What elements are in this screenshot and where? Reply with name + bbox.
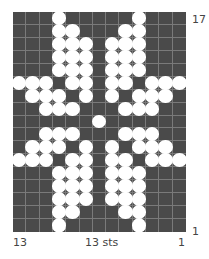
contrast-stitch-dot: [158, 153, 172, 167]
contrast-stitch-dot: [52, 24, 66, 38]
chart-cell: [173, 12, 186, 25]
chart-cell: [40, 193, 53, 206]
knitting-chart-grid: [13, 12, 186, 232]
chart-cell: [119, 103, 132, 116]
chart-cell: [93, 51, 106, 64]
chart-cell: [13, 206, 26, 219]
stitch-count-label: 13 sts: [85, 237, 118, 248]
chart-cell: [66, 12, 79, 25]
chart-cell: [66, 219, 79, 232]
chart-cell: [106, 12, 119, 25]
chart-cell: [133, 219, 146, 232]
chart-cell: [80, 25, 93, 38]
contrast-stitch-dot: [65, 24, 79, 38]
chart-cell: [146, 206, 159, 219]
contrast-stitch-dot: [118, 76, 132, 90]
chart-cell: [40, 103, 53, 116]
contrast-stitch-dot: [105, 63, 119, 77]
chart-cell: [66, 77, 79, 90]
chart-cell: [26, 116, 39, 129]
contrast-stitch-dot: [25, 153, 39, 167]
chart-cell: [53, 64, 66, 77]
row-label-top: 17: [192, 14, 206, 25]
contrast-stitch-dot: [65, 179, 79, 193]
contrast-stitch-dot: [132, 37, 146, 51]
chart-cell: [159, 90, 172, 103]
contrast-stitch-dot: [65, 37, 79, 51]
chart-cell: [40, 77, 53, 90]
chart-cell: [53, 12, 66, 25]
chart-cell: [53, 141, 66, 154]
chart-cell: [80, 77, 93, 90]
chart-cell: [26, 51, 39, 64]
chart-cell: [40, 64, 53, 77]
contrast-stitch-dot: [65, 153, 79, 167]
contrast-stitch-dot: [105, 76, 119, 90]
chart-cell: [146, 64, 159, 77]
chart-cell: [40, 12, 53, 25]
chart-cell: [80, 90, 93, 103]
chart-cell: [93, 90, 106, 103]
contrast-stitch-dot: [52, 11, 66, 25]
contrast-stitch-dot: [132, 140, 146, 154]
chart-cell: [66, 103, 79, 116]
chart-cell: [106, 193, 119, 206]
contrast-stitch-dot: [132, 127, 146, 141]
chart-cell: [66, 25, 79, 38]
contrast-stitch-dot: [118, 179, 132, 193]
chart-cell: [53, 103, 66, 116]
chart-cell: [26, 103, 39, 116]
contrast-stitch-dot: [65, 192, 79, 206]
chart-cell: [40, 51, 53, 64]
chart-cell: [53, 38, 66, 51]
contrast-stitch-dot: [52, 50, 66, 64]
chart-cell: [93, 64, 106, 77]
chart-cell: [106, 219, 119, 232]
chart-cell: [119, 12, 132, 25]
chart-cell: [93, 116, 106, 129]
contrast-stitch-dot: [118, 166, 132, 180]
chart-cell: [159, 154, 172, 167]
chart-cell: [173, 206, 186, 219]
chart-cell: [40, 90, 53, 103]
chart-cell: [159, 167, 172, 180]
chart-cell: [26, 64, 39, 77]
contrast-stitch-dot: [79, 76, 93, 90]
contrast-stitch-dot: [65, 63, 79, 77]
chart-cell: [40, 180, 53, 193]
contrast-stitch-dot: [158, 89, 172, 103]
chart-cell: [173, 103, 186, 116]
contrast-stitch-dot: [52, 179, 66, 193]
chart-cell: [53, 90, 66, 103]
contrast-stitch-dot: [118, 127, 132, 141]
chart-cell: [159, 116, 172, 129]
chart-cell: [13, 25, 26, 38]
chart-cell: [119, 128, 132, 141]
contrast-stitch-dot: [65, 166, 79, 180]
chart-cell: [106, 64, 119, 77]
chart-cell: [159, 12, 172, 25]
contrast-stitch-dot: [145, 102, 159, 116]
contrast-stitch-dot: [132, 166, 146, 180]
chart-cell: [93, 167, 106, 180]
chart-cell: [40, 206, 53, 219]
contrast-stitch-dot: [105, 179, 119, 193]
chart-cell: [66, 38, 79, 51]
chart-cell: [106, 77, 119, 90]
chart-cell: [106, 90, 119, 103]
chart-cell: [40, 154, 53, 167]
contrast-stitch-dot: [118, 63, 132, 77]
contrast-stitch-dot: [39, 89, 53, 103]
chart-cell: [80, 103, 93, 116]
chart-cell: [173, 64, 186, 77]
chart-cell: [146, 51, 159, 64]
chart-cell: [80, 12, 93, 25]
chart-cell: [146, 90, 159, 103]
contrast-stitch-dot: [132, 218, 146, 233]
chart-cell: [146, 38, 159, 51]
chart-cell: [40, 25, 53, 38]
chart-cell: [13, 12, 26, 25]
chart-cell: [93, 25, 106, 38]
contrast-stitch-dot: [145, 127, 159, 141]
row-label-bottom: 1: [192, 226, 199, 237]
